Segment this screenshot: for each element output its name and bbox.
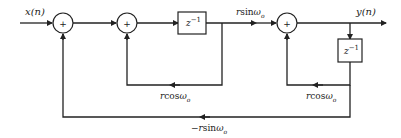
- input-label: x(n): [25, 6, 45, 17]
- block-diagram: x(n) + + z−1 rsinωo + y(n) z−1 rcosω: [0, 0, 401, 138]
- adder-3-symbol: +: [283, 19, 291, 29]
- output-label: y(n): [355, 6, 376, 17]
- delay-2-block: z−1: [338, 39, 362, 62]
- adder-2: +: [117, 13, 137, 33]
- feedback-path-1: rcosωo: [127, 23, 222, 103]
- adder-1-symbol: +: [59, 19, 67, 29]
- feedback-gain-2-label: rcosωo: [306, 91, 337, 103]
- adder-2-symbol: +: [123, 19, 131, 29]
- feedback-gain-1-label: rcosωo: [160, 91, 191, 103]
- forward-gain-label: rsinωo: [236, 7, 265, 19]
- adder-3: +: [277, 13, 297, 33]
- input-signal: x(n): [20, 6, 52, 23]
- delay-1-block: z−1: [178, 12, 206, 34]
- output-signal: y(n): [297, 6, 386, 23]
- adder-1: +: [53, 13, 73, 33]
- outer-feedback-gain-label: −rsinωo: [191, 123, 227, 135]
